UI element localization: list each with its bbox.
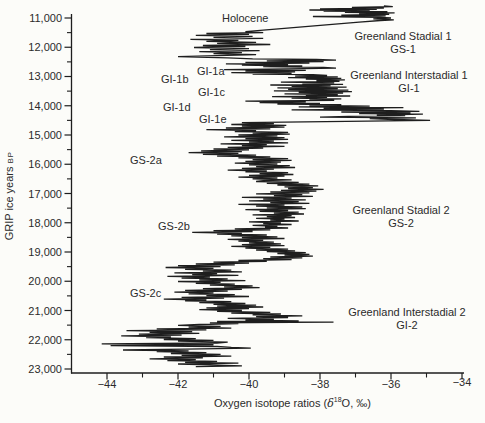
- annotation-gs1-line2: GS-1: [338, 43, 468, 56]
- annotation-gs2c: GS-2c: [130, 287, 161, 300]
- annotation-gi1c: GI-1c: [198, 86, 225, 99]
- isotope-18-superscript: 18: [334, 396, 342, 403]
- annotation-gi1a: GI-1a: [197, 65, 225, 78]
- y-tick-label: 22,000: [18, 334, 62, 347]
- y-tick-label: 15,000: [18, 129, 62, 142]
- y-tick-label: 14,000: [18, 100, 62, 113]
- y-tick-label: 13,000: [18, 70, 62, 83]
- delta-symbol: δ: [327, 397, 334, 410]
- x-tick-label: −38: [300, 378, 340, 391]
- annotation-gs2b: GS-2b: [158, 220, 190, 233]
- annotation-gs2-line2: GS-2: [340, 217, 462, 230]
- y-tick-label: 12,000: [18, 41, 62, 54]
- annotation-gs1-line1: Greenland Stadial 1: [338, 30, 468, 43]
- annotation-gi1: Greenland Interstadial 1 GI-1: [340, 69, 478, 95]
- x-tick-label: −44: [87, 378, 127, 391]
- grip-isotope-figure: 11,000 12,000 13,000 14,000 15,000 16,00…: [0, 0, 485, 423]
- annotation-holocene: Holocene: [222, 12, 268, 25]
- y-tick-label: 23,000: [18, 363, 62, 376]
- annotation-gs2a: GS-2a: [130, 154, 162, 167]
- y-axis-title-bp: BP: [6, 152, 15, 164]
- y-tick-label: 11,000: [18, 12, 62, 25]
- annotation-gi1b: GI-1b: [161, 73, 189, 86]
- y-tick-label: 21,000: [18, 305, 62, 318]
- y-tick-label: 19,000: [18, 246, 62, 259]
- x-tick-label: −34: [442, 376, 482, 389]
- x-axis-title: Oxygen isotope ratios (δ18O, ‰): [175, 396, 410, 410]
- annotation-gi2-line1: Greenland Interstadial 2: [337, 306, 477, 319]
- annotation-gs2-line1: Greenland Stadial 2: [340, 204, 462, 217]
- y-tick-label: 20,000: [18, 275, 62, 288]
- y-tick-label: 17,000: [18, 188, 62, 201]
- y-axis-title-text: GRIP ice years: [3, 163, 15, 240]
- x-tick-label: −42: [158, 378, 198, 391]
- annotation-gi1-line2: GI-1: [340, 82, 478, 95]
- y-tick-label: 18,000: [18, 217, 62, 230]
- y-axis-title: GRIP ice years BP: [3, 134, 17, 258]
- annotation-gs2: Greenland Stadial 2 GS-2: [340, 204, 462, 230]
- x-tick-label: −36: [371, 378, 411, 391]
- annotation-gs1: Greenland Stadial 1 GS-1: [338, 30, 468, 56]
- x-axis-title-text: Oxygen isotope ratios (: [214, 397, 327, 409]
- annotation-gi2: Greenland Interstadial 2 GI-2: [337, 306, 477, 332]
- annotation-gi1-line1: Greenland Interstadial 1: [340, 69, 478, 82]
- annotation-gi1d: GI-1d: [163, 101, 191, 114]
- y-tick-label: 16,000: [18, 158, 62, 171]
- annotation-gi1e: GI-1e: [199, 113, 227, 126]
- annotation-gi2-line2: GI-2: [337, 319, 477, 332]
- x-tick-label: −40: [229, 378, 269, 391]
- x-axis-title-suffix: O, ‰): [342, 397, 371, 409]
